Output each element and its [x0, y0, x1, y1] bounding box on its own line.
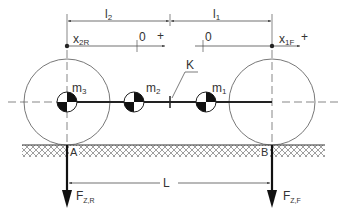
mass-m3-label: m3	[72, 81, 87, 96]
dimension-l1-label: l1	[213, 7, 221, 22]
rear-axis-label: x2R	[73, 32, 89, 47]
mass-m2-label: m2	[146, 81, 161, 96]
coupling-label: K	[186, 58, 194, 72]
coupling-leader	[172, 72, 198, 98]
mass-m1-symbol	[196, 92, 216, 112]
mass-m3-symbol	[57, 92, 77, 112]
contact-point-b: B	[261, 146, 268, 158]
rear-axis-plus: +	[157, 29, 164, 43]
front-axis-plus: +	[301, 30, 308, 44]
dimension-L-label: L	[163, 176, 170, 190]
mass-m1-label: m1	[212, 81, 227, 96]
contact-point-a: A	[70, 146, 78, 158]
mass-m2-symbol	[124, 92, 144, 112]
dimension-l2-label: l2	[105, 7, 113, 22]
front-axis-label: x1F	[279, 32, 294, 47]
vehicle-diagram: l2 l1 x2R 0 + 0 x1F + K	[0, 0, 345, 215]
dimension-l2-l1	[67, 14, 272, 48]
rear-force-label: FZ,R	[76, 189, 95, 204]
front-force-label: FZ,F	[283, 189, 301, 204]
rear-axis-zero: 0	[139, 30, 146, 44]
front-axis-zero: 0	[205, 30, 212, 44]
